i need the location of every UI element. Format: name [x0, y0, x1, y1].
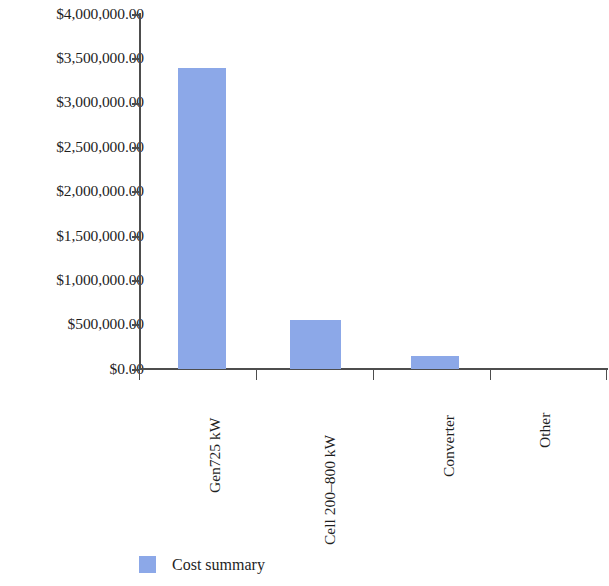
y-tick-label: $3,000,000.00	[20, 94, 144, 110]
x-axis-category-divider	[373, 369, 374, 380]
y-tick-label: $0.00	[20, 361, 144, 377]
y-tick-label: $2,000,000.00	[20, 183, 144, 199]
y-tick-label: $3,500,000.00	[20, 50, 144, 66]
x-tick-label-cell-200-800-kw: Cell 200–800 kW	[322, 435, 338, 545]
y-axis-line	[139, 13, 141, 370]
legend-label-cost-summary: Cost summary	[172, 556, 265, 573]
bar-converter[interactable]	[411, 356, 459, 369]
x-tick-label-gen725-kw: Gen725 kW	[207, 418, 223, 493]
legend-swatch-cost-summary	[139, 556, 156, 573]
y-tick-label: $1,000,000.00	[20, 272, 144, 288]
bar-cell-200-800-kw[interactable]	[290, 320, 341, 369]
x-axis-category-divider	[490, 369, 491, 380]
y-tick-label: $1,500,000.00	[20, 228, 144, 244]
chart-legend: Cost summary	[139, 556, 265, 573]
x-tick-label-converter: Converter	[441, 415, 457, 477]
bar-chart: $4,000,000.00 $3,500,000.00 $3,000,000.0…	[0, 0, 609, 586]
bar-gen725-kw[interactable]	[178, 68, 226, 369]
x-axis-category-divider	[256, 369, 257, 380]
y-tick-label: $2,500,000.00	[20, 139, 144, 155]
x-axis-category-edge	[606, 369, 607, 380]
y-tick-label: $500,000.00	[20, 316, 144, 332]
x-axis-category-edge	[139, 369, 140, 380]
y-tick-label: $4,000,000.00	[20, 6, 144, 22]
x-tick-label-other: Other	[537, 413, 553, 448]
